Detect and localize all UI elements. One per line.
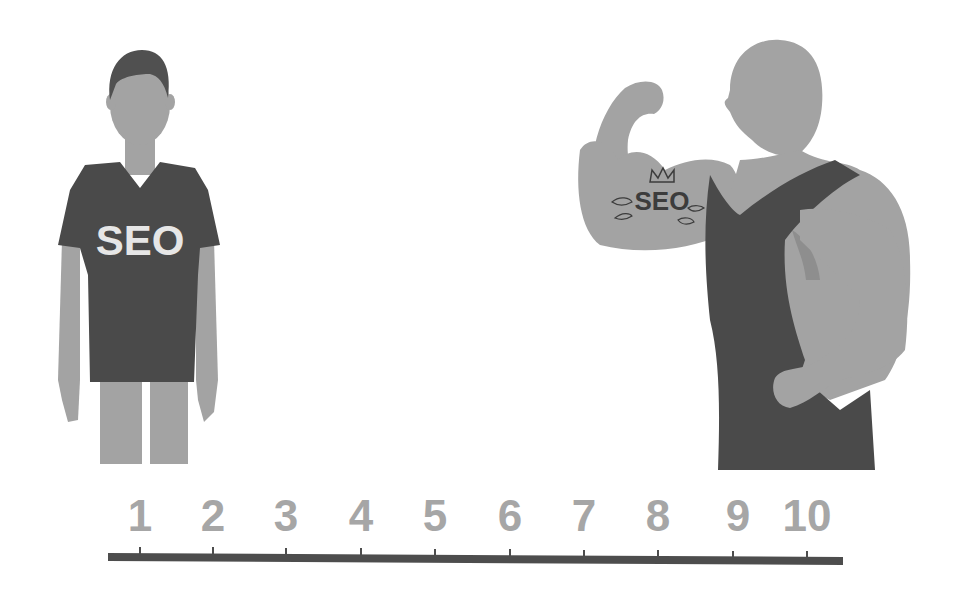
- tick-1: [139, 547, 141, 555]
- right-ear: [165, 94, 175, 110]
- scale-label-1: 1: [128, 494, 152, 538]
- scale-label-4: 4: [349, 494, 373, 538]
- scale-label-3: 3: [274, 494, 298, 538]
- tick-2: [212, 547, 214, 555]
- tick-10: [806, 551, 808, 559]
- right-leg: [150, 378, 188, 464]
- left-leg: [100, 378, 142, 464]
- scale-bar: [100, 540, 860, 580]
- right-arm: [196, 240, 218, 422]
- scale-label-2: 2: [201, 494, 225, 538]
- skinny-figure: SEO: [50, 40, 230, 470]
- tshirt: [58, 162, 220, 382]
- muscular-figure: SEO: [570, 30, 920, 480]
- shirt-text: SEO: [96, 217, 185, 264]
- scale-label-5: 5: [423, 494, 447, 538]
- tick-3: [285, 548, 287, 556]
- scale-label-10: 10: [783, 494, 832, 538]
- scale-label-6: 6: [498, 494, 522, 538]
- scale-label-7: 7: [572, 494, 596, 538]
- tick-8: [657, 550, 659, 558]
- left-arm: [58, 240, 80, 422]
- scale-label-9: 9: [726, 494, 750, 538]
- scale-label-8: 8: [646, 494, 670, 538]
- tick-9: [732, 551, 734, 559]
- tick-6: [509, 549, 511, 557]
- tattoo-text: SEO: [635, 186, 690, 216]
- head: [725, 40, 823, 156]
- tick-4: [360, 548, 362, 556]
- tick-5: [434, 549, 436, 557]
- tick-7: [583, 550, 585, 558]
